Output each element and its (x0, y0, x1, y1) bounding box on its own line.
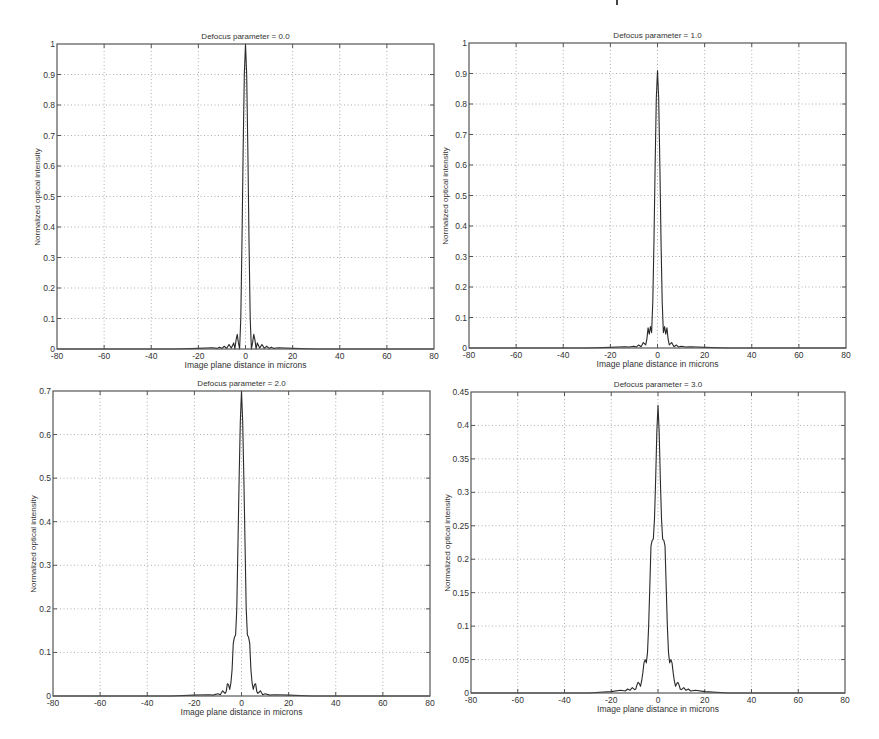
subplot-title: Defocus parameter = 0.0 (201, 32, 289, 41)
x-tick-label: -60 (98, 351, 110, 361)
y-tick-label: 0.4 (43, 222, 55, 232)
subplot-defocus-0: Defocus parameter = 0.0 Image plane dist… (57, 44, 434, 349)
y-tick-label: 0.3 (39, 560, 51, 570)
x-tick-label: 80 (425, 698, 434, 708)
x-tick-label: 40 (747, 695, 756, 705)
y-tick-label: 0.1 (455, 313, 467, 323)
y-tick-label: 0.4 (455, 221, 467, 231)
subplot-defocus-3: Defocus parameter = 3.0 Image plane dist… (471, 392, 845, 693)
subplot-title: Defocus parameter = 1.0 (613, 31, 701, 40)
y-tick-label: 0 (464, 688, 469, 698)
y-tick-label: 0.9 (455, 69, 467, 79)
x-axis-label: Image plane distance in microns (181, 707, 303, 717)
x-axis-label: Image plane distance in microns (185, 360, 307, 370)
y-axis-label: Normalized optical intensity (29, 495, 38, 592)
y-tick-label: 0 (462, 343, 467, 353)
subplot-title: Defocus parameter = 2.0 (197, 379, 285, 388)
x-tick-label: -40 (145, 351, 157, 361)
y-tick-label: 0.2 (43, 283, 55, 293)
y-tick-label: 0.3 (457, 487, 469, 497)
x-tick-label: -40 (141, 698, 153, 708)
plot-area (57, 44, 434, 349)
y-tick-label: 0.45 (452, 387, 469, 397)
y-tick-label: 0.2 (457, 554, 469, 564)
cropped-text-fragment (616, 0, 618, 5)
x-tick-label: -40 (557, 350, 569, 360)
x-tick-label: 60 (382, 351, 391, 361)
x-tick-label: 80 (841, 350, 850, 360)
y-tick-label: 0.5 (43, 192, 55, 202)
plot-area (471, 392, 845, 693)
y-tick-label: 0.25 (452, 521, 469, 531)
y-axis-label: Normalized optical intensity (33, 148, 42, 245)
y-tick-label: 0.3 (43, 253, 55, 263)
x-tick-label: 40 (335, 351, 344, 361)
x-tick-label: 0 (243, 351, 248, 361)
y-tick-label: 0 (46, 691, 51, 701)
y-tick-label: 0.3 (455, 252, 467, 262)
y-tick-label: 1 (50, 39, 55, 49)
x-tick-label: -60 (94, 698, 106, 708)
y-tick-label: 0.1 (39, 647, 51, 657)
x-tick-label: -60 (510, 350, 522, 360)
subplot-defocus-1: Defocus parameter = 1.0 Image plane dist… (469, 43, 846, 348)
y-tick-label: 0.6 (43, 161, 55, 171)
x-tick-label: 20 (700, 695, 709, 705)
y-tick-label: 0.6 (39, 430, 51, 440)
x-tick-label: 0 (656, 695, 661, 705)
y-tick-label: 0 (50, 344, 55, 354)
y-tick-label: 0.2 (39, 604, 51, 614)
y-tick-label: 0.7 (455, 130, 467, 140)
x-tick-label: -20 (188, 698, 200, 708)
plot-area (53, 391, 430, 696)
y-tick-label: 0.8 (43, 100, 55, 110)
x-tick-label: 60 (378, 698, 387, 708)
y-tick-label: 0.8 (455, 99, 467, 109)
x-tick-label: 20 (284, 698, 293, 708)
x-tick-label: 0 (239, 698, 244, 708)
y-tick-label: 0.4 (39, 517, 51, 527)
x-tick-label: 80 (429, 351, 438, 361)
x-tick-label: 20 (700, 350, 709, 360)
subplot-defocus-2: Defocus parameter = 2.0 Image plane dist… (53, 391, 430, 696)
x-tick-label: -20 (604, 350, 616, 360)
x-tick-label: 40 (747, 350, 756, 360)
y-tick-label: 0.5 (455, 191, 467, 201)
y-tick-label: 0.15 (452, 588, 469, 598)
x-tick-label: 40 (331, 698, 340, 708)
x-axis-label: Image plane distance in microns (597, 359, 719, 369)
y-tick-label: 0.7 (43, 131, 55, 141)
x-tick-label: -20 (192, 351, 204, 361)
y-tick-label: 0.1 (43, 314, 55, 324)
y-tick-label: 0.1 (457, 621, 469, 631)
x-axis-label: Image plane distance in microns (597, 704, 719, 714)
y-tick-label: 0.6 (455, 160, 467, 170)
y-tick-label: 0.05 (452, 655, 469, 665)
x-tick-label: 60 (794, 350, 803, 360)
x-tick-label: 60 (794, 695, 803, 705)
plot-area (469, 43, 846, 348)
y-tick-label: 0.4 (457, 420, 469, 430)
y-tick-label: 0.7 (39, 386, 51, 396)
y-tick-label: 0.2 (455, 282, 467, 292)
x-tick-label: 0 (655, 350, 660, 360)
y-tick-label: 1 (462, 38, 467, 48)
subplot-title: Defocus parameter = 3.0 (614, 380, 702, 389)
x-tick-label: 80 (840, 695, 849, 705)
x-tick-label: -40 (558, 695, 570, 705)
y-tick-label: 0.35 (452, 454, 469, 464)
y-axis-label: Normalized optical intensity (443, 494, 452, 591)
y-axis-label: Normalized optical intensity (441, 147, 450, 244)
x-tick-label: -60 (512, 695, 524, 705)
x-tick-label: 20 (288, 351, 297, 361)
y-tick-label: 0.9 (43, 70, 55, 80)
x-tick-label: -20 (605, 695, 617, 705)
y-tick-label: 0.5 (39, 473, 51, 483)
